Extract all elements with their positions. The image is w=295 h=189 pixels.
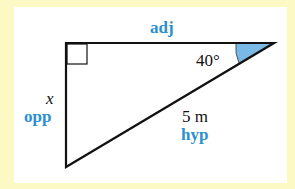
angle-label: 40° [196, 51, 220, 70]
hyp-length-label: 5 m [182, 107, 208, 126]
adj-label: adj [150, 18, 174, 37]
right-angle-marker [67, 44, 87, 64]
x-label: x [45, 89, 54, 108]
right-triangle [66, 43, 274, 167]
triangle-diagram: adj 40° x opp 5 m hyp [0, 0, 295, 189]
hyp-label: hyp [181, 125, 208, 144]
opp-label: opp [24, 107, 51, 126]
